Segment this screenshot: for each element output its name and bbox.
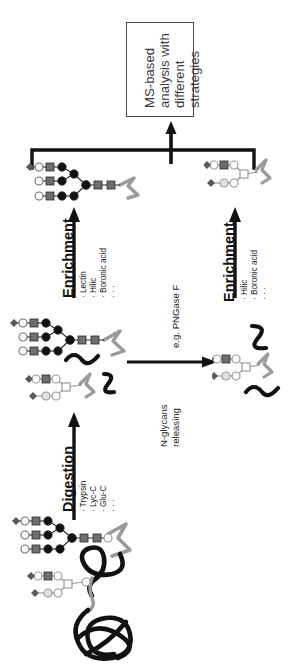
- glycoproteomics-workflow-figure: MS-based analysis with different strateg…: [0, 0, 297, 671]
- enrichment-left-bullet-3: · · ·: [110, 285, 119, 298]
- right-arrow-release: [127, 352, 219, 372]
- ms-analysis-box: MS-based analysis with different strateg…: [126, 22, 194, 117]
- ms-analysis-line-4: strategies: [188, 51, 202, 108]
- enrichment-left-bullet-1: · Hilic: [90, 278, 99, 298]
- intact-glycoprotein: [8, 512, 168, 670]
- ms-analysis-line-3: different: [173, 61, 187, 108]
- digestion-bullet-1: · Lyc-C: [90, 486, 99, 512]
- release-title-line-2: releasing: [171, 408, 181, 447]
- glycopeptides-digested-left: [8, 312, 143, 404]
- glycopeptide-enriched-left: [24, 140, 149, 212]
- digestion-bullet-0: · Trypsin: [80, 481, 89, 512]
- enrichment-right-bullet-2: · · ·: [261, 287, 270, 300]
- glycan-enriched-right: [204, 150, 289, 210]
- released-glycan-and-peptides: [212, 318, 294, 410]
- enrichment-left-title: Enrichment: [61, 218, 76, 298]
- digestion-bullet-3: · · ·: [110, 499, 119, 512]
- digestion-bullet-2: · Glu-C: [100, 486, 109, 512]
- enrichment-right-bullet-1: · Boronic acid: [251, 250, 260, 300]
- ms-analysis-line-1: MS-based: [143, 48, 157, 108]
- enrichment-left-bullet-2: · Boronic acid: [100, 248, 109, 298]
- enrichment-right-bullet-0: · Hilic: [241, 280, 250, 300]
- digestion-title: Digestion: [61, 446, 76, 512]
- ms-analysis-line-2: analysis with: [158, 33, 172, 108]
- enrichment-left-bullet-0: · Lectin: [80, 271, 89, 298]
- release-title-line-1: N-glycans: [159, 404, 169, 447]
- enrichment-right-title: Enrichment: [222, 222, 237, 302]
- release-note: e.g. PNGase F: [171, 285, 181, 348]
